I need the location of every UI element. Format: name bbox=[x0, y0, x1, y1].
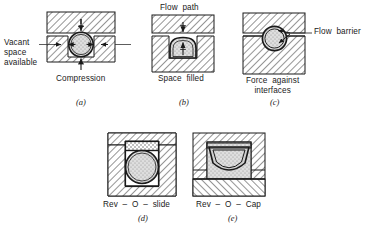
panel-b bbox=[152, 15, 214, 72]
label-rev-o-cap: Rev – O – Cap bbox=[196, 200, 261, 210]
label-space-filled: Space filled bbox=[158, 74, 204, 84]
caption-a: (a) bbox=[76, 97, 86, 107]
panel-c-oring bbox=[262, 26, 286, 50]
panel-c bbox=[243, 13, 312, 74]
panel-a bbox=[39, 12, 131, 70]
label-force-against-interfaces: Force against interfaces bbox=[246, 76, 299, 96]
label-flow-barrier: Flow barrier bbox=[314, 27, 361, 37]
panel-d bbox=[108, 133, 176, 196]
caption-c: (c) bbox=[270, 97, 279, 107]
label-rev-o-slide: Rev – O – slide bbox=[103, 200, 170, 210]
caption-d: (d) bbox=[138, 213, 148, 223]
label-flow-path: Flow path bbox=[160, 3, 199, 13]
label-compression: Compression bbox=[56, 74, 105, 84]
label-vacant-space-available: Vacant space available bbox=[4, 38, 37, 69]
caption-b: (b) bbox=[179, 97, 189, 107]
caption-e: (e) bbox=[228, 213, 237, 223]
panel-e bbox=[193, 133, 265, 196]
panel-d-slide-ring bbox=[126, 142, 159, 151]
